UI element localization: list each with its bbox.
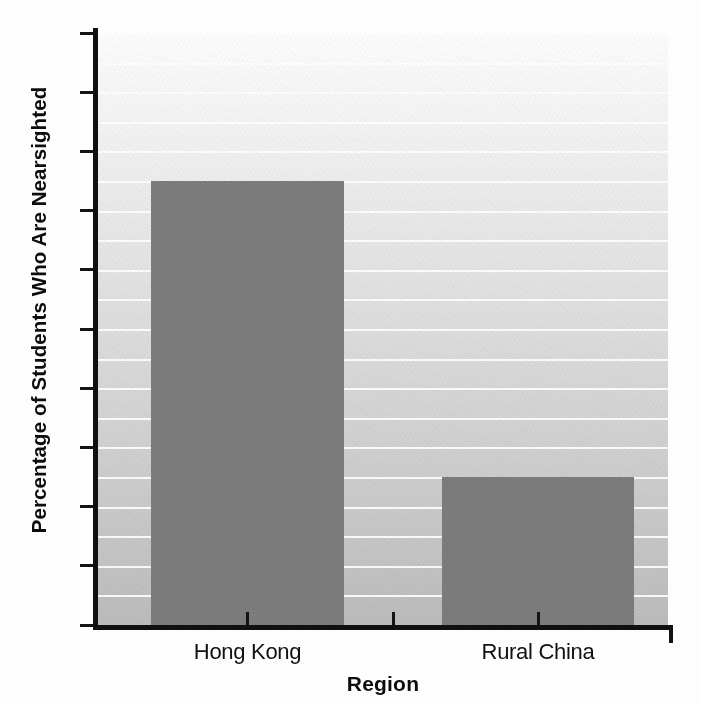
- x-axis-title: Region: [98, 672, 668, 696]
- x-axis-line: Hong KongRural China: [93, 625, 673, 630]
- bar-texture: [442, 477, 634, 625]
- y-axis-tick: [80, 624, 93, 627]
- y-axis-tick: [80, 328, 93, 331]
- y-axis-tick: [80, 505, 93, 508]
- bar-chart-figure: 0102030405060708090100 Hong KongRural Ch…: [0, 0, 702, 704]
- y-axis-tick: [80, 91, 93, 94]
- y-axis-tick: [80, 446, 93, 449]
- bar-hong-kong: [151, 181, 344, 625]
- y-axis-tick: [80, 209, 93, 212]
- y-axis-title: Percentage of Students Who Are Nearsight…: [27, 40, 51, 580]
- x-axis-category-label: Rural China: [428, 641, 648, 663]
- y-axis-tick: [80, 387, 93, 390]
- bar-rural-china: [442, 477, 634, 625]
- y-axis-tick: [80, 564, 93, 567]
- y-axis-tick: [80, 268, 93, 271]
- y-axis-tick: [80, 150, 93, 153]
- bar-texture: [151, 181, 344, 625]
- x-axis-end-tick: [669, 630, 673, 643]
- x-axis-category-label: Hong Kong: [138, 641, 358, 663]
- x-axis-tick: [246, 612, 249, 625]
- x-axis-tick: [537, 612, 540, 625]
- y-axis-tick: [80, 32, 93, 35]
- x-axis-tick: [392, 612, 395, 625]
- y-axis-line: 0102030405060708090100: [93, 28, 98, 630]
- plot-area: [98, 33, 668, 625]
